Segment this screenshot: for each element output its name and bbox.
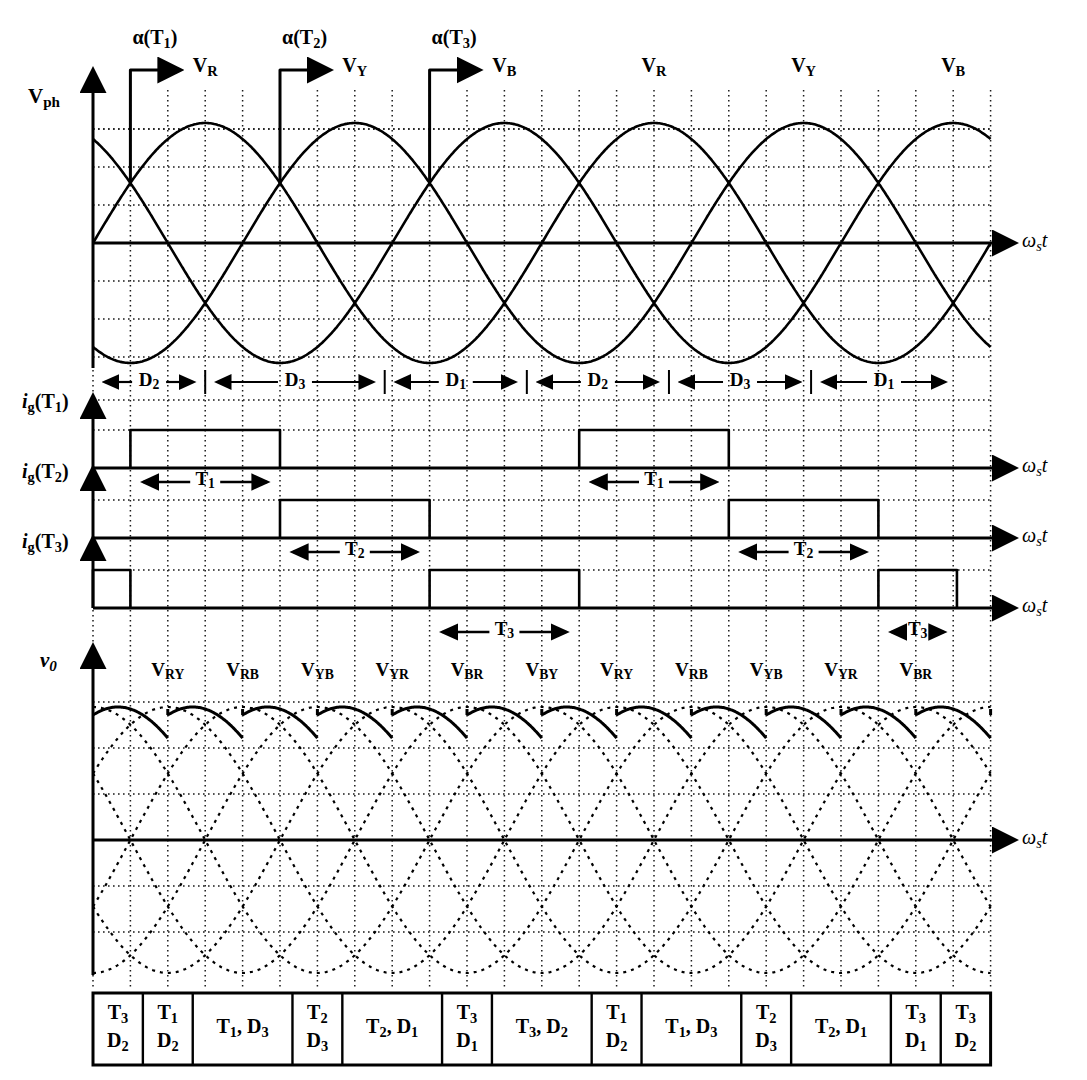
conduction-table-cell-1-top: T3	[108, 1001, 129, 1027]
conduction-table-cell-2-bottom: D2	[157, 1029, 179, 1055]
igt2-x-axis-label: ωst	[1022, 524, 1047, 550]
diode-band-label-3: D1	[445, 369, 466, 393]
conduction-table-cell-13-top: T3	[955, 1001, 976, 1027]
output-voltage-label-3: VYB	[301, 659, 334, 683]
firing-angle-label-2: α(T2)	[282, 26, 327, 52]
igt3-x-axis-label: ωst	[1022, 594, 1047, 620]
grid-lines	[93, 90, 991, 990]
output-voltage-label-7: VRY	[600, 659, 633, 683]
conduction-table-cell-12-top: T3	[906, 1001, 927, 1027]
waveform-figure	[0, 0, 1087, 1080]
phase-label-2: VY	[342, 54, 367, 80]
diode-band-label-1: D2	[139, 369, 160, 393]
diode-band-label-5: D3	[730, 369, 751, 393]
output-voltage-label-9: VYB	[750, 659, 783, 683]
conduction-table-cell-2-top: T1	[158, 1001, 179, 1027]
phase-label-3: VB	[492, 54, 516, 80]
vo-output-waveform	[93, 707, 991, 738]
conduction-table-cell-4-bottom: D3	[307, 1029, 329, 1055]
conduction-interval-label-2: T1	[644, 468, 664, 492]
output-voltage-label-1: VRY	[151, 659, 184, 683]
conduction-interval-label-4: T2	[794, 538, 814, 562]
conduction-table-cell-8-top: T1	[606, 1001, 627, 1027]
phase-label-4: VR	[642, 54, 667, 80]
conduction-table-cell-11: T2, D1	[815, 1015, 867, 1041]
vo-axis-label: v0	[40, 648, 57, 675]
firing-angle-marker-2	[280, 70, 328, 183]
conduction-table-cell-10-top: T2	[756, 1001, 777, 1027]
conduction-table-cell-7: T3, D2	[516, 1015, 568, 1041]
diode-band-label-6: D1	[874, 369, 895, 393]
firing-angle-label-3: α(T3)	[432, 26, 477, 52]
conduction-table-cell-13-bottom: D2	[955, 1029, 977, 1055]
igt3-pulse-3	[878, 570, 957, 608]
phase-label-1: VR	[193, 54, 218, 80]
output-voltage-label-11: VBR	[899, 659, 932, 683]
igt3-pulse-1	[93, 570, 130, 608]
igt3-axis-label: ig(T3)	[22, 530, 69, 556]
firing-angle-marker-3	[430, 70, 478, 183]
conduction-interval-label-5: T3	[495, 618, 515, 642]
conduction-table-cell-6-bottom: D1	[456, 1029, 478, 1055]
conduction-table-cell-1-bottom: D2	[107, 1029, 129, 1055]
conduction-table-cell-4-top: T2	[307, 1001, 328, 1027]
output-voltage-label-10: VYR	[824, 659, 857, 683]
conduction-table-cell-5: T2, D1	[366, 1015, 418, 1041]
diode-band-label-2: D3	[285, 369, 306, 393]
conduction-table-cell-6-top: T3	[457, 1001, 478, 1027]
vo-x-axis-label: ωst	[1022, 826, 1047, 852]
conduction-table-cell-8-bottom: D2	[606, 1029, 628, 1055]
conduction-interval-label-3: T2	[345, 538, 365, 562]
conduction-table-cell-9: T1, D3	[665, 1015, 717, 1041]
output-voltage-label-4: VYR	[375, 659, 408, 683]
output-voltage-label-2: VRB	[226, 659, 259, 683]
igt1-axis-label: ig(T1)	[22, 390, 69, 416]
vph-x-axis-label: ωst	[1022, 229, 1047, 255]
conduction-table-cell-3: T1, D3	[216, 1015, 268, 1041]
conduction-table-cell-12-bottom: D1	[905, 1029, 927, 1055]
output-voltage-label-8: VRB	[675, 659, 708, 683]
igt2-axis-label: ig(T2)	[22, 460, 69, 486]
diode-band-label-4: D2	[588, 369, 609, 393]
diode-conduction-row	[105, 370, 945, 394]
igt1-x-axis-label: ωst	[1022, 454, 1047, 480]
vph-axis-label: Vph	[28, 84, 60, 111]
output-voltage-label-6: VBY	[525, 659, 558, 683]
conduction-table-cell-10-bottom: D3	[755, 1029, 777, 1055]
output-voltage-label-5: VBR	[451, 659, 484, 683]
firing-angle-marker-1	[130, 70, 178, 183]
firing-angle-label-1: α(T1)	[132, 26, 177, 52]
phase-label-5: VY	[791, 54, 816, 80]
phase-label-6: VB	[941, 54, 965, 80]
conduction-interval-label-1: T1	[195, 468, 215, 492]
conduction-interval-label-6: T3	[908, 618, 928, 642]
